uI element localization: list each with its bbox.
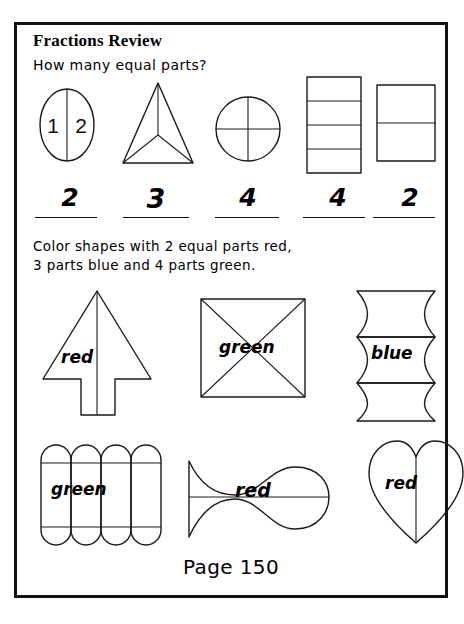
- triangle-shape: [113, 67, 199, 185]
- answer-line-rectangle-two[interactable]: [373, 217, 435, 218]
- color-instructions-line-2: 3 parts blue and 4 parts green.: [33, 256, 292, 275]
- color-label-capsule-grid: green: [51, 479, 107, 499]
- answer-value-rectangle-two: 2: [367, 183, 453, 212]
- parts-exercise-row: 1 2 2 3: [17, 67, 445, 237]
- parts-exercise-circle[interactable]: 4: [205, 67, 291, 237]
- color-label-arrow-tree: red: [61, 347, 93, 367]
- circle-shape: [205, 67, 291, 185]
- page-title: Fractions Review: [33, 31, 162, 51]
- oval-shape: 1 2: [27, 67, 113, 185]
- color-instructions-line-1: Color shapes with 2 equal parts red,: [33, 237, 292, 256]
- color-exercise-row-1: red green blue: [17, 281, 445, 431]
- answer-value-oval: 2: [27, 183, 113, 212]
- oval-part-label-1: 1: [47, 114, 59, 137]
- oval-part-label-2: 2: [75, 114, 87, 137]
- parts-exercise-oval[interactable]: 1 2 2: [27, 67, 113, 237]
- parts-exercise-rectangle-four[interactable]: 4: [289, 67, 375, 237]
- color-exercise-row-2: green red red: [17, 429, 445, 555]
- color-exercise-capsule-grid[interactable]: green: [35, 437, 165, 555]
- worksheet-page-frame: Fractions Review How many equal parts? 1…: [14, 22, 448, 598]
- answer-line-circle[interactable]: [215, 217, 279, 218]
- answer-line-rectangle-four[interactable]: [303, 217, 365, 218]
- color-label-heart: red: [385, 473, 417, 493]
- color-exercise-square-diagonals[interactable]: green: [195, 295, 311, 403]
- answer-value-triangle: 3: [113, 183, 199, 214]
- page-number: Page 150: [17, 555, 445, 579]
- rectangle-two-bands-shape: [365, 67, 451, 185]
- parts-exercise-triangle[interactable]: 3: [113, 67, 199, 237]
- color-exercise-scalloped-column[interactable]: blue: [343, 285, 453, 425]
- color-exercise-arrow-tree[interactable]: red: [35, 281, 165, 427]
- color-exercise-heart[interactable]: red: [361, 431, 464, 551]
- color-label-scalloped-column: blue: [371, 343, 413, 363]
- rectangle-four-bands-shape: [289, 67, 375, 185]
- parts-exercise-rectangle-two[interactable]: 2: [365, 67, 451, 237]
- answer-line-oval[interactable]: [35, 217, 97, 218]
- color-instructions: Color shapes with 2 equal parts red, 3 p…: [33, 237, 292, 275]
- arrow-tree-shape: [35, 281, 165, 427]
- answer-value-circle: 4: [205, 183, 291, 212]
- color-exercise-fish[interactable]: red: [183, 453, 333, 543]
- answer-line-triangle[interactable]: [123, 217, 189, 218]
- color-label-fish: red: [235, 479, 271, 501]
- color-label-square-diagonals: green: [219, 337, 275, 357]
